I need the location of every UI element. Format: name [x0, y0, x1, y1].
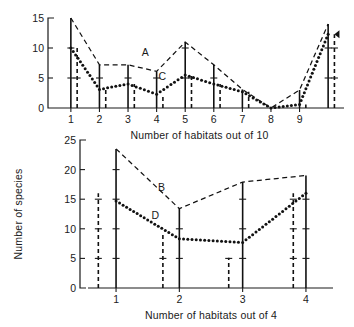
- series-dot-C: [300, 99, 303, 102]
- series-dot-D: [254, 231, 257, 234]
- series-dot-D: [278, 212, 281, 215]
- x-tick-label-top-panel-1: 2: [97, 113, 103, 125]
- series-dot-C: [286, 104, 289, 107]
- series-dot-C: [86, 71, 89, 74]
- figure-container: 123456789051015ACNumber of habitats out …: [0, 0, 354, 327]
- series-dot-C: [298, 103, 301, 106]
- series-dot-C: [244, 92, 247, 95]
- series-dot-C: [147, 90, 150, 93]
- series-dot-C: [77, 57, 80, 60]
- y-tick-label-top-panel-1: 5: [38, 72, 44, 84]
- series-dot-C: [306, 83, 309, 86]
- series-label-D: D: [152, 209, 160, 221]
- series-dot-C: [98, 88, 101, 91]
- x-tick-label-bottom-panel-2: 3: [240, 293, 246, 305]
- series-dot-D: [171, 233, 174, 236]
- series-dot-C: [196, 77, 199, 80]
- series-dot-D: [178, 237, 181, 240]
- y-axis-line-top-panel: [48, 18, 54, 108]
- series-dot-D: [191, 238, 194, 241]
- series-dot-D: [248, 236, 251, 239]
- series-dot-D: [268, 220, 271, 223]
- series-dot-D: [264, 223, 267, 226]
- series-dot-D: [294, 200, 297, 203]
- series-dot-C: [229, 87, 232, 90]
- series-line-B: [116, 149, 306, 209]
- series-dot-C: [74, 53, 77, 56]
- series-dot-C: [139, 87, 142, 90]
- series-dot-C: [266, 104, 269, 107]
- series-dot-C: [303, 91, 306, 94]
- series-dot-C: [88, 74, 91, 77]
- y-tick-label-bottom-panel-4: 20: [64, 164, 76, 176]
- series-dot-D: [125, 206, 128, 209]
- series-dot-D: [258, 228, 261, 231]
- series-dot-D: [195, 238, 198, 241]
- series-dot-C: [188, 75, 191, 78]
- series-dot-C: [155, 93, 158, 96]
- series-dot-D: [164, 229, 167, 232]
- series-dot-C: [84, 67, 87, 70]
- series-dot-C: [127, 83, 130, 86]
- series-label-B: B: [158, 181, 165, 193]
- series-dot-C: [204, 80, 207, 83]
- series-dot-D: [224, 240, 227, 243]
- series-dot-C: [311, 72, 314, 75]
- series-dot-D: [298, 197, 301, 200]
- series-line-A: [71, 18, 328, 108]
- series-dot-C: [327, 33, 330, 36]
- series-dot-C: [248, 94, 251, 97]
- x-tick-label-top-panel-2: 3: [125, 113, 131, 125]
- y-tick-label-top-panel-3: 15: [32, 12, 44, 24]
- x-tick-label-top-panel-4: 5: [182, 113, 188, 125]
- series-dot-C: [269, 107, 272, 110]
- x-axis-title-top-panel: Number of habitats out of 10: [130, 129, 268, 141]
- series-dot-C: [208, 81, 211, 84]
- series-dot-D: [241, 241, 244, 244]
- series-dot-D: [174, 235, 177, 238]
- series-dot-C: [304, 87, 307, 90]
- series-dot-C: [233, 88, 236, 91]
- series-dot-C: [72, 50, 75, 53]
- series-dot-C: [212, 83, 215, 86]
- series-dot-C: [106, 86, 109, 89]
- series-dot-C: [220, 85, 223, 88]
- series-dot-D: [186, 238, 189, 241]
- series-dot-C: [166, 86, 169, 89]
- series-dot-C: [177, 78, 180, 81]
- series-dot-C: [274, 106, 277, 109]
- series-dot-C: [290, 104, 293, 107]
- series-dot-C: [151, 91, 154, 94]
- series-dot-C: [192, 76, 195, 79]
- x-tick-label-top-panel-7: 8: [268, 113, 274, 125]
- series-dot-C: [259, 100, 262, 103]
- series-dot-C: [131, 84, 134, 87]
- series-dot-C: [118, 84, 121, 87]
- series-dot-C: [79, 60, 82, 63]
- series-dot-C: [323, 41, 326, 44]
- series-dot-C: [325, 37, 328, 40]
- series-dot-D: [139, 214, 142, 217]
- series-dot-D: [244, 238, 247, 241]
- series-dot-C: [317, 56, 320, 59]
- series-dot-C: [312, 68, 315, 71]
- series-dot-D: [143, 216, 146, 219]
- series-dot-C: [110, 86, 113, 89]
- series-dot-D: [136, 212, 139, 215]
- series-dot-D: [160, 227, 163, 230]
- series-dot-D: [146, 218, 149, 221]
- series-dot-D: [203, 239, 206, 242]
- series-dot-C: [135, 85, 138, 88]
- y-tick-label-top-panel-2: 10: [32, 42, 44, 54]
- series-dot-D: [216, 239, 219, 242]
- series-dot-C: [308, 80, 311, 83]
- y-tick-label-bottom-panel-3: 15: [64, 193, 76, 205]
- series-dot-C: [320, 48, 323, 51]
- x-tick-label-top-panel-6: 7: [239, 113, 245, 125]
- series-dot-C: [93, 81, 96, 84]
- series-dot-D: [118, 202, 121, 205]
- series-dot-C: [159, 90, 162, 93]
- panel-bottom-panel: 12340510152025BDNumber of habitats out o…: [12, 134, 333, 321]
- series-dot-D: [129, 208, 132, 211]
- series-dot-C: [162, 88, 165, 91]
